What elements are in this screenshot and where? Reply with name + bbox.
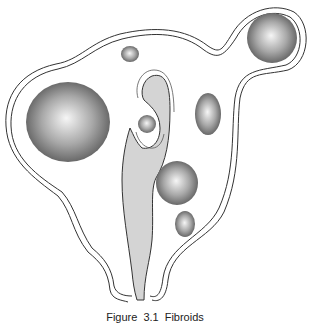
fibroid-pedunculated-right-top — [247, 13, 297, 63]
figure-caption: Figure3.1Fibroids — [0, 311, 310, 323]
caption-label: Figure — [106, 311, 137, 323]
uterus-fibroid-diagram — [0, 0, 310, 325]
caption-number: 3.1 — [143, 311, 158, 323]
fibroid-submucosal-center — [138, 115, 156, 133]
fibroid-subserosal-left-large — [26, 82, 110, 162]
fibroid-intramural-right — [195, 93, 221, 135]
fibroid-intramural-bottom-right — [175, 211, 195, 237]
fibroid-intramural-lower-right — [156, 161, 198, 205]
fibroid-intramural-top-small — [121, 46, 139, 62]
caption-title: Fibroids — [165, 311, 204, 323]
